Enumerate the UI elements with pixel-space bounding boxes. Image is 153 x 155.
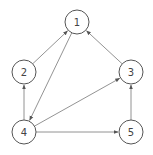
- edge-3-to-1: [87, 31, 123, 64]
- edge-2-to-1: [33, 31, 68, 64]
- nodes-layer: 12345: [12, 10, 143, 144]
- node-label: 2: [21, 67, 27, 78]
- edges-layer: [24, 31, 131, 132]
- node-label: 1: [74, 17, 80, 28]
- directed-graph: 12345: [0, 0, 153, 155]
- edge-4-to-3: [34, 78, 119, 126]
- edge-1-to-4: [30, 33, 72, 120]
- node-label: 4: [21, 127, 27, 138]
- node-4: 4: [12, 120, 36, 144]
- node-3: 3: [119, 60, 143, 84]
- node-2: 2: [12, 60, 36, 84]
- node-5: 5: [119, 120, 143, 144]
- node-label: 3: [128, 67, 134, 78]
- node-label: 5: [128, 127, 134, 138]
- node-1: 1: [65, 10, 89, 34]
